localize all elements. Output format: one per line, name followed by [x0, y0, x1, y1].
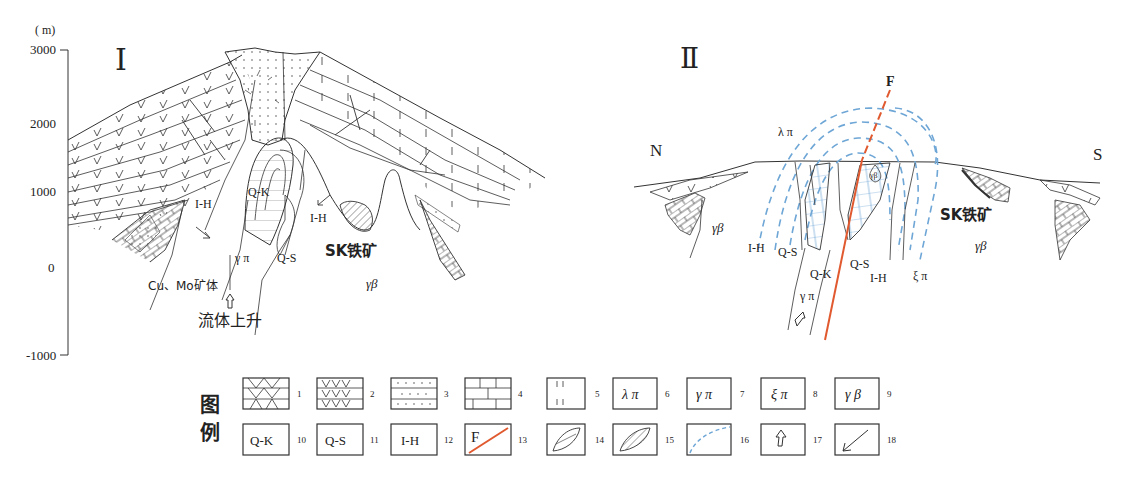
fluid-rise-arrow-icon [795, 312, 805, 326]
svg-text:2: 2 [370, 389, 375, 399]
svg-text:16: 16 [740, 435, 750, 445]
legend-item-3: 3 [391, 378, 449, 409]
svg-text:17: 17 [813, 435, 823, 445]
label-gamma-beta-right: γβ [975, 238, 987, 253]
legend-item-13: F 13 [465, 424, 528, 455]
label-gamma-pi: γ π [799, 289, 814, 303]
label-cu-mo-orebody: Cu、Mo矿体 [148, 279, 218, 293]
legend-title-2: 例 [200, 421, 220, 445]
y-axis: ( m) 3000 2000 1000 0 -1000 [26, 23, 68, 363]
legend-item-5: 5 [547, 378, 600, 409]
svg-text:18: 18 [887, 435, 897, 445]
svg-text:10: 10 [297, 435, 307, 445]
svg-text:λ π: λ π [621, 387, 640, 402]
legend-item-9: γ β 9 [835, 378, 892, 409]
y-tick-3000: 3000 [30, 42, 56, 57]
legend-item-4: 4 [465, 378, 523, 409]
svg-text:7: 7 [740, 389, 745, 399]
svg-text:1: 1 [297, 389, 302, 399]
svg-text:11: 11 [370, 435, 379, 445]
y-axis-unit: ( m) [35, 23, 55, 37]
svg-text:ξ π: ξ π [771, 387, 788, 402]
label-ih-left: I-H [195, 197, 212, 211]
svg-text:12: 12 [444, 435, 453, 445]
y-tick-minus-1000: -1000 [26, 348, 56, 363]
svg-text:Q-S: Q-S [325, 433, 346, 448]
label-qk: Q-K [810, 267, 832, 281]
label-qs-left: Q-S [778, 245, 797, 259]
legend-item-17: 17 [761, 424, 823, 455]
legend-item-14: 14 [547, 424, 605, 455]
svg-text:γ π: γ π [696, 387, 713, 402]
label-sk-iron-ore: SK铁矿 [325, 242, 377, 260]
legend-item-8: ξ π 8 [761, 378, 818, 409]
label-south: S [1093, 145, 1102, 164]
svg-text:3: 3 [444, 389, 449, 399]
label-gamma-beta: γβ [366, 276, 378, 291]
label-north: N [650, 141, 662, 160]
svg-text:4: 4 [518, 389, 523, 399]
section-2: Ⅱ N S [634, 43, 1102, 340]
svg-text:14: 14 [595, 435, 605, 445]
legend-item-15: 15 [613, 424, 675, 455]
section-2-title: Ⅱ [680, 43, 699, 74]
svg-text:9: 9 [887, 389, 892, 399]
label-gamma-beta-left: γβ [712, 220, 724, 235]
svg-text:8: 8 [813, 389, 818, 399]
legend-item-1: 1 [243, 378, 302, 409]
svg-text:13: 13 [518, 435, 528, 445]
svg-text:15: 15 [665, 435, 675, 445]
legend-item-2: 2 [317, 378, 375, 409]
left-flank-strata [68, 55, 250, 310]
legend-item-10: Q-K 10 [243, 424, 307, 455]
label-ih-left: I-H [748, 241, 765, 255]
y-tick-1000: 1000 [30, 184, 56, 199]
label-fault: F [886, 74, 895, 89]
label-lambda-pi: λ π [778, 125, 793, 139]
svg-text:6: 6 [665, 389, 670, 399]
label-qs-right: Q-S [850, 257, 869, 271]
svg-text:F: F [471, 429, 479, 445]
section-1: ( m) 3000 2000 1000 0 -1000 Ⅰ [26, 23, 545, 363]
fluid-rise-arrow-icon [226, 294, 234, 308]
legend: 图 例 1 2 3 4 [200, 378, 897, 455]
label-gamma-beta-small: γβ [869, 171, 878, 180]
label-sk-iron-ore: SK铁矿 [940, 206, 992, 224]
legend-item-18: 18 [835, 424, 897, 455]
label-gamma-pi: γ π [234, 251, 249, 265]
svg-text:γ β: γ β [845, 387, 861, 402]
legend-item-12: I-H 12 [391, 424, 453, 455]
y-tick-0: 0 [48, 260, 55, 275]
legend-item-11: Q-S 11 [317, 424, 379, 455]
svg-text:5: 5 [595, 389, 600, 399]
svg-text:I-H: I-H [401, 433, 419, 448]
legend-title-1: 图 [200, 393, 220, 417]
legend-item-6: λ π 6 [613, 378, 670, 409]
legend-item-7: γ π 7 [687, 378, 745, 409]
label-ih-right: I-H [310, 211, 327, 225]
label-xi-pi: ξ π [913, 269, 927, 283]
legend-item-16: 16 [687, 424, 750, 455]
section-1-title: Ⅰ [115, 43, 127, 76]
label-ih-right: I-H [870, 271, 887, 285]
svg-text:Q-K: Q-K [250, 433, 274, 448]
label-fluid-rise: 流体上升 [198, 311, 262, 330]
porphyry-body: γβ [788, 162, 915, 335]
label-qk: Q-K [248, 185, 270, 199]
north-strata [650, 172, 748, 258]
label-qs: Q-S [277, 251, 296, 265]
y-tick-2000: 2000 [30, 116, 56, 131]
diagram-canvas: ( m) 3000 2000 1000 0 -1000 Ⅰ [0, 0, 1128, 486]
